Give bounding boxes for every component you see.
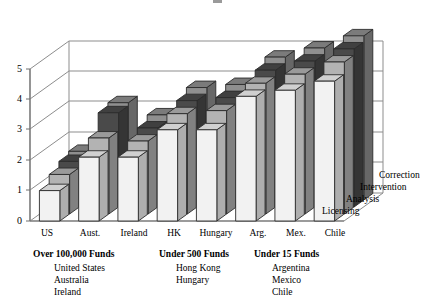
depth-axis-label-correction: Correction: [379, 170, 420, 180]
bar-arg-analysis-side: [266, 77, 275, 214]
group-title-under-500-funds: Under 500 Funds: [159, 249, 229, 260]
group-item-australia: Australia: [54, 275, 89, 286]
x-axis-label-chile: Chile: [314, 228, 356, 238]
bar-chile-analysis-side: [344, 56, 353, 214]
depth-axis-label-licensing: Licensing: [322, 206, 359, 216]
bar-chile-licensing-side: [335, 75, 344, 221]
x-axis-label-arg: Arg.: [239, 228, 277, 238]
group-item-chile: Chile: [272, 287, 293, 298]
depth-axis-label-intervention: Intervention: [360, 182, 406, 192]
bar-hk-licensing-side: [178, 123, 187, 221]
bar-aust-analysis-side: [109, 132, 118, 214]
group-item-ireland: Ireland: [54, 287, 81, 298]
x-axis-label-hk: HK: [156, 228, 192, 238]
bar-hungary-analysis-side: [227, 104, 236, 214]
group-title-over-100000-funds: Over 100,000 Funds: [33, 249, 114, 260]
chart-canvas: 5 4 3 2 1 0 Licensing Analysis Intervent…: [0, 0, 444, 301]
bar-us-licensing-front: [39, 191, 59, 221]
group-title-under-15-funds: Under 15 Funds: [254, 249, 319, 260]
bar-mex-licensing-side: [295, 84, 304, 221]
bar-aust-licensing-front: [79, 157, 99, 221]
x-axis-label-us: US: [29, 228, 65, 238]
bar-hungary-licensing-front: [196, 130, 216, 221]
bar-chile-correction-side: [364, 29, 373, 200]
bar-ireland-licensing-front: [118, 157, 138, 221]
group-item-hong-kong: Hong Kong: [176, 263, 221, 274]
group-item-united-states: United States: [54, 263, 105, 274]
bar-arg-licensing-side: [256, 90, 265, 221]
depth-axis-label-analysis: Analysis: [346, 194, 379, 204]
bar-hk-analysis-side: [187, 107, 196, 214]
bar-hungary-licensing-side: [217, 123, 226, 221]
bar-arg-licensing-front: [236, 96, 256, 221]
group-item-hungary: Hungary: [176, 275, 209, 286]
bar-mex-licensing-front: [275, 90, 295, 221]
x-axis-label-hungary: Hungary: [190, 228, 242, 238]
x-axis-label-ireland: Ireland: [111, 228, 157, 238]
group-item-mexico: Mexico: [272, 275, 301, 286]
group-item-argentina: Argentina: [272, 263, 310, 274]
x-axis-label-aust: Aust.: [69, 228, 111, 238]
bar-hk-licensing-front: [157, 130, 177, 221]
bar-aust-licensing-side: [99, 151, 108, 221]
bar-us-analysis-side: [70, 168, 79, 214]
bar-ireland-analysis-side: [148, 135, 157, 214]
bar-ireland-licensing-side: [138, 151, 147, 221]
bar-mex-analysis-side: [305, 68, 314, 214]
bar-chile-licensing-front: [314, 81, 334, 221]
x-axis-label-mex: Mex.: [276, 228, 316, 238]
